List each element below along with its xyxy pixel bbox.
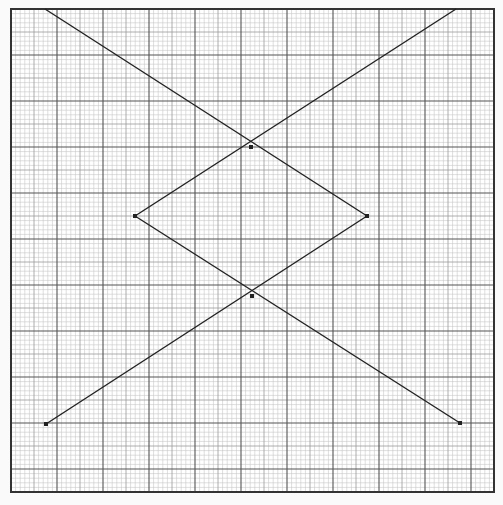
- upper-crossing-marker: [249, 145, 253, 149]
- paper-area: [11, 9, 494, 492]
- bottom-right-marker: [458, 421, 462, 425]
- right-vertex-marker: [365, 214, 369, 218]
- left-vertex-marker: [133, 214, 137, 218]
- graph-paper: [0, 0, 503, 505]
- bottom-left-marker: [44, 422, 48, 426]
- lower-crossing-marker: [250, 294, 254, 298]
